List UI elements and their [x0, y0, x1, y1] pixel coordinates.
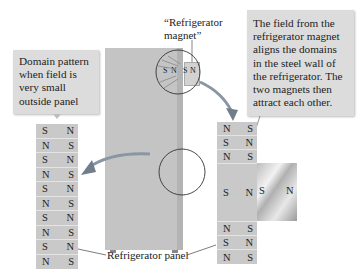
arrow-head-icon [226, 108, 238, 121]
domain-row: SN [36, 211, 78, 226]
domain-row: NS [36, 168, 78, 183]
domain-row: SN [36, 153, 78, 168]
pole: N [42, 227, 50, 238]
left-domain-panel: SN NS SN NS SN NS SN NS SN NS [36, 124, 78, 269]
pole: N [223, 223, 231, 234]
pole: S [247, 223, 253, 234]
pole: S [68, 169, 74, 180]
arrow-to-left-panel [88, 154, 150, 168]
domain-row: NS [217, 122, 257, 136]
domain-row: SN [217, 236, 257, 250]
pole: N [66, 154, 74, 165]
pole: S [42, 212, 48, 223]
magnet-pole-s: S [259, 185, 265, 196]
domain-row: SN [36, 182, 78, 197]
pole: S [68, 198, 74, 209]
pole: N [245, 237, 253, 248]
pole: S [42, 241, 48, 252]
pole: N [42, 256, 50, 267]
arrow-to-right-panel [200, 82, 232, 112]
magnet-pole-n: N [286, 185, 294, 196]
domain-row: NS [36, 139, 78, 154]
pole: S [247, 151, 253, 162]
pole: S [42, 183, 48, 194]
domain-row: NS [36, 226, 78, 241]
pole: N [223, 252, 231, 263]
pole: S [223, 237, 229, 248]
pole: N [42, 198, 50, 209]
pole: S [247, 123, 253, 134]
pole: S [42, 154, 48, 165]
pole: N [66, 212, 74, 223]
pole: N [42, 169, 50, 180]
field-lines-icon [158, 56, 180, 88]
panel-zoom-circle [159, 149, 205, 195]
pole: N [66, 125, 74, 136]
domain-row: SN [217, 136, 257, 150]
aligned-domain: SN [217, 164, 257, 222]
panel-leader-left [78, 249, 106, 255]
pole: N [42, 140, 50, 151]
pole: S [68, 140, 74, 151]
pole: S [68, 227, 74, 238]
panel-leader-right [187, 245, 216, 255]
domain-row: NS [217, 250, 257, 264]
pole: S [223, 187, 229, 198]
pole: N [223, 123, 231, 134]
arrow-head-icon [81, 160, 96, 175]
domain-row: NS [36, 255, 78, 270]
domain-row: NS [217, 222, 257, 236]
pole: N [66, 183, 74, 194]
pole: S [223, 137, 229, 148]
right-domain-panel: NS SN NS SN NS SN NS [217, 122, 257, 264]
domain-row: SN [36, 124, 78, 139]
pole: N [223, 151, 231, 162]
domain-row: NS [36, 197, 78, 212]
pole: S [68, 256, 74, 267]
pole: N [245, 137, 253, 148]
pole: N [66, 241, 74, 252]
pole: S [247, 252, 253, 263]
domain-row: SN [36, 240, 78, 255]
pole: S [42, 125, 48, 136]
magnet-zoom-circle [156, 50, 200, 94]
refrigerator-panel-label: Refrigerator panel [107, 249, 189, 261]
pole: N [245, 187, 253, 198]
domain-row: NS [217, 150, 257, 164]
